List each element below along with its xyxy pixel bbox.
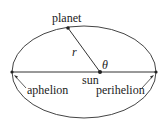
planet-label: planet [52,11,82,25]
r-label: r [72,45,77,59]
perihelion-label: perihelion [96,83,145,97]
theta-label: θ [102,58,108,72]
planet-dot [66,26,70,30]
aphelion-dot [10,70,13,73]
perihelion-arrowhead-icon [150,75,154,79]
aphelion-arrowhead-icon [14,75,18,79]
perihelion-dot [154,70,157,73]
orbit-diagram: planet r θ sun aphelion perihelion [0,0,164,127]
aphelion-label: aphelion [27,83,68,97]
